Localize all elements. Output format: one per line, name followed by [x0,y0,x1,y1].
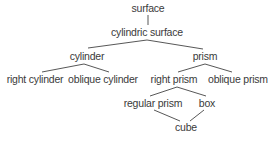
surface-hierarchy-diagram: surface cylindric surface cylinder prism… [0,0,272,141]
node-cylindric-surface: cylindric surface [111,26,183,38]
edge-cylindric-surface-to-cylinder [88,40,147,48]
edge-cylinder-to-oblique-cylinder [84,64,109,72]
node-right-prism: right prism [151,73,198,85]
node-cylinder: cylinder [70,50,105,62]
node-regular-prism: regular prism [124,97,183,109]
node-oblique-cylinder: oblique cylinder [68,73,138,85]
edge-cylinder-to-right-cylinder [42,64,84,72]
edge-right-prism-to-box [177,87,206,96]
edge-box-to-cube [190,110,204,121]
edge-prism-to-oblique-prism [205,64,232,72]
node-cube: cube [175,121,197,133]
node-box: box [199,97,215,109]
node-surface: surface [131,2,164,14]
edge-cylindric-surface-to-prism [147,40,203,49]
node-prism: prism [193,50,218,62]
edge-right-prism-to-regular-prism [150,87,177,96]
node-right-cylinder: right cylinder [7,73,64,85]
edge-regular-prism-to-cube [154,110,180,121]
edges-layer [0,0,272,141]
edge-prism-to-right-prism [178,64,205,72]
node-oblique-prism: oblique prism [208,73,268,85]
